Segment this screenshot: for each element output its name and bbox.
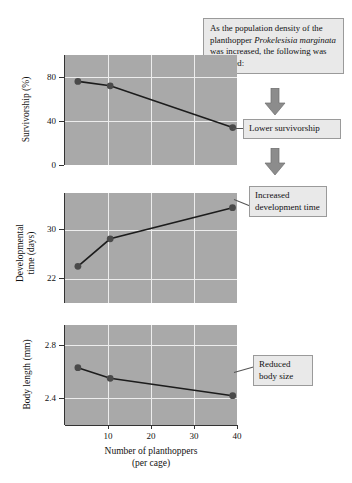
data-point [229,392,236,399]
down-arrow-icon-2 [264,148,286,180]
data-point [75,78,82,85]
chart-panel-developmental-time [65,193,237,303]
y-tick-mark-2.4 [59,398,64,399]
data-point [107,375,114,382]
series-body-length [65,325,237,425]
x-tick-label-40: 40 [227,431,247,441]
y-tick-mark-2.8 [59,345,64,346]
y-tick-mark-0 [59,165,64,166]
down-arrow-icon-1 [264,88,286,120]
y-tick-mark-80 [59,77,64,78]
y-axis-title-devtime: Developmental time (days) [15,203,37,303]
x-tick-mark-40 [237,425,238,429]
data-point [75,364,82,371]
x-tick-mark-30 [194,425,195,429]
y-axis-line-bodylength [64,325,65,425]
caption-species-name: Prokelesisia marginata [254,35,336,45]
callout-reduced-body-size: Reduced body size [253,355,313,386]
data-point [229,204,236,211]
y-tick-mark-22 [59,278,64,279]
y-axis-title-devtime-line2: time (days) [26,232,36,275]
y-axis-line-devtime [64,193,65,303]
callout-increased-development-time: Increased development time [249,186,327,217]
y-axis-title-bodylength: Body length (mm) [22,325,33,425]
y-axis-line-survivorship [64,55,65,165]
x-tick-mark-10 [108,425,109,429]
y-tick-mark-30 [59,229,64,230]
y-axis-title-survivorship: Survivorship (%) [21,55,32,165]
data-point [107,235,114,242]
series-survivorship [65,55,237,165]
figure-root: As the population density of the plantho… [0,0,352,483]
x-tick-label-30: 30 [184,431,204,441]
x-axis-title-line1: Number of planthoppers [105,446,198,456]
x-axis-title-line2: (per cage) [132,458,170,468]
chart-panel-body-length [65,325,237,425]
y-axis-title-devtime-line1: Developmental [15,224,25,282]
x-tick-mark-20 [151,425,152,429]
x-tick-label-20: 20 [141,431,161,441]
data-point [75,263,82,270]
x-axis-title: Number of planthoppers (per cage) [55,445,247,469]
series-developmental-time [65,193,237,303]
y-tick-mark-40 [59,121,64,122]
x-tick-label-10: 10 [98,431,118,441]
data-point [107,82,114,89]
callout-lower-survivorship: Lower survivorship [243,119,341,139]
chart-panel-survivorship [65,55,237,165]
